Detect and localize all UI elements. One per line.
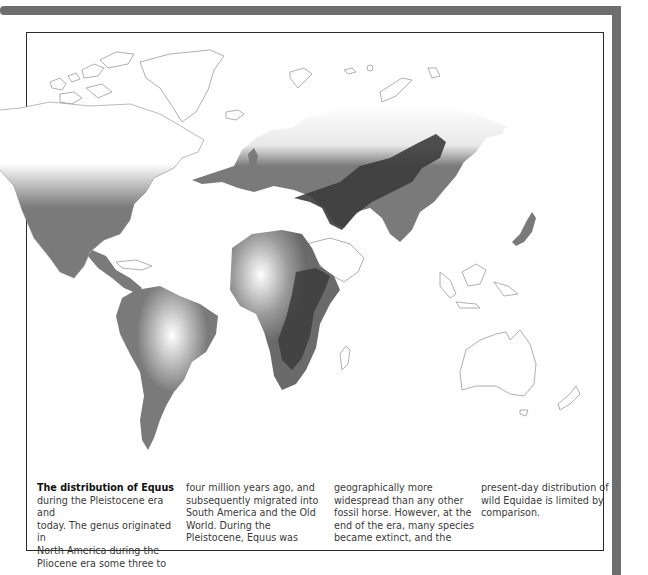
caption-line: during the Pleistocene era and	[37, 495, 177, 520]
arctic-islands	[50, 52, 134, 104]
caption-column-3: geographically more widespread than any …	[334, 482, 474, 545]
madagascar	[340, 346, 350, 370]
caption-line: North America during the	[37, 545, 177, 558]
caption-line: Pliocene era some three to	[37, 558, 177, 571]
caption-column-1: The distribution of Equus during the Ple…	[37, 482, 177, 570]
caption-line: end of the era, many species	[334, 520, 474, 533]
frame-top-band	[0, 6, 621, 15]
japan	[512, 212, 536, 246]
greenland	[140, 50, 224, 122]
caption-line: South America and the Old	[186, 507, 326, 520]
australia	[460, 330, 536, 396]
caption-line: four million years ago, and	[186, 482, 326, 495]
caption-line: today. The genus originated in	[37, 520, 177, 545]
caption-line: subsequently migrated into	[186, 495, 326, 508]
iceland	[226, 110, 244, 120]
caption-line: present-day distribution of	[481, 482, 621, 495]
caption-column-4: present-day distribution of wild Equidae…	[481, 482, 621, 520]
south-america	[116, 286, 218, 450]
caption-line: became extinct, and the	[334, 532, 474, 545]
caption-line: comparison.	[481, 507, 621, 520]
north-america	[0, 102, 204, 278]
figure-title: The distribution of Equus	[37, 482, 177, 495]
caption-line: widespread than any other	[334, 495, 474, 508]
caption-line: wild Equidae is limited by	[481, 495, 621, 508]
caption-line: fossil horse. However, at the	[334, 507, 474, 520]
new-zealand	[558, 386, 580, 410]
caption-line: World. During the	[186, 520, 326, 533]
caption-line: Pleistocene, Equus was	[186, 532, 326, 545]
caption-line: geographically more	[334, 482, 474, 495]
central-america	[88, 250, 142, 294]
world-distribution-map	[0, 32, 604, 452]
southeast-asia-islands	[440, 264, 518, 308]
caption-column-2: four million years ago, and subsequently…	[186, 482, 326, 545]
